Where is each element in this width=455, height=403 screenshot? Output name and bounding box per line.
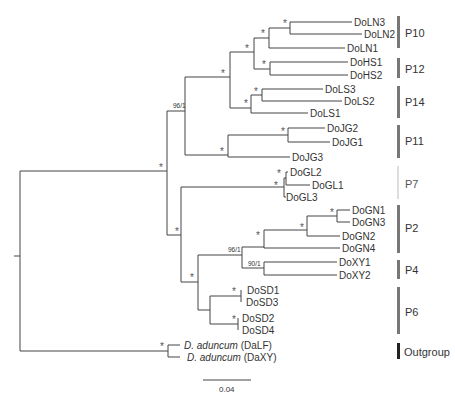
leaf-label: D. aduncum (DaXY) — [187, 352, 277, 363]
leaf-label: DoGN4 — [342, 243, 376, 254]
support-star: * — [261, 28, 265, 39]
leaf-label: DoHS1 — [350, 57, 383, 68]
leaf-label: DoXY2 — [339, 270, 371, 281]
leaf-label: DoLN2 — [364, 29, 396, 40]
support-star: * — [220, 146, 224, 157]
group-label: P6 — [405, 306, 418, 318]
group-bar-p7 — [397, 166, 399, 199]
leaf-label: DoJG1 — [332, 137, 364, 148]
support-star: * — [277, 168, 281, 179]
support-star: * — [232, 314, 236, 325]
phylogenetic-tree: * * * * * * * * * * * * * * * * * * * * … — [0, 0, 455, 403]
support-star: * — [283, 18, 287, 29]
leaf-label: DoGN3 — [352, 217, 386, 228]
group-label: Outgroup — [404, 346, 450, 358]
group-label: P7 — [405, 178, 418, 190]
support-star: * — [281, 126, 285, 137]
support-star: * — [244, 98, 248, 109]
support-star: * — [300, 222, 304, 233]
group-bar-p10 — [397, 16, 400, 48]
leaf-label: DoSD2 — [242, 313, 275, 324]
leaf-label: DoSD1 — [247, 285, 280, 296]
support-star: * — [232, 286, 236, 297]
leaf-label: DoGL1 — [312, 180, 344, 191]
group-label: P4 — [405, 264, 418, 276]
group-label: P11 — [405, 135, 424, 147]
leaf-label: DoJG3 — [292, 152, 324, 163]
support-star: * — [160, 341, 164, 352]
support-star: * — [274, 180, 278, 191]
leaf-label: DoLS2 — [344, 96, 375, 107]
support-star: * — [159, 162, 163, 173]
support-star: * — [256, 230, 260, 241]
scale-bar-label: 0.04 — [219, 385, 235, 394]
leaf-label: DoGL2 — [290, 167, 322, 178]
support-star: * — [190, 272, 194, 283]
group-label: P12 — [405, 63, 425, 75]
leaf-label: DoXY1 — [339, 257, 371, 268]
group-label: P14 — [405, 96, 425, 108]
support-star: * — [262, 59, 266, 70]
support-star: * — [330, 207, 334, 218]
leaf-label: D. aduncum (DaLF) — [184, 340, 272, 351]
group-bar-p14 — [397, 86, 400, 118]
group-bar-p11 — [397, 125, 400, 158]
group-label: P10 — [405, 27, 425, 39]
support-value: 96/1 — [228, 246, 241, 253]
support-value: 90/1 — [248, 260, 261, 267]
support-star: * — [175, 226, 179, 237]
support-value: 96/1 — [173, 102, 186, 109]
leaf-label: DoJG2 — [327, 123, 359, 134]
leaf-label: DoLS1 — [310, 108, 341, 119]
group-bar-p2 — [397, 205, 400, 253]
leaf-label: DoSD3 — [246, 297, 279, 308]
group-bar-p12 — [397, 58, 400, 78]
leaf-label: DoLS3 — [325, 84, 356, 95]
leaf-label: DoSD4 — [242, 325, 275, 336]
leaf-label: DoGN2 — [342, 231, 376, 242]
leaf-label: DoLN1 — [347, 43, 379, 54]
leaf-label: DoGL3 — [286, 192, 318, 203]
leaf-label: DoHS2 — [350, 70, 383, 81]
group-bar-outgroup — [397, 343, 400, 359]
support-star: * — [254, 86, 258, 97]
support-star: * — [245, 43, 249, 54]
group-bar-p4 — [397, 260, 400, 279]
leaf-label: DoGN1 — [352, 205, 386, 216]
support-star: * — [221, 68, 225, 79]
group-bar-p6 — [397, 287, 400, 334]
group-label: P2 — [405, 222, 418, 234]
leaf-label: DoLN3 — [354, 17, 386, 28]
